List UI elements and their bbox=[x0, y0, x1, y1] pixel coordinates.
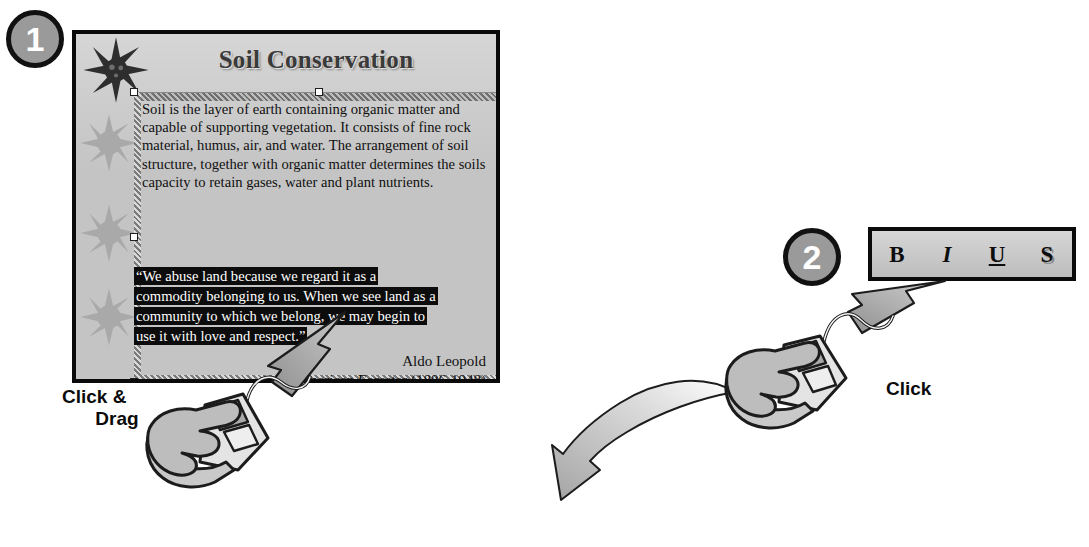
caption-drag-line1: Click & bbox=[62, 386, 126, 407]
slide-title[interactable]: Soil Conservation bbox=[136, 46, 496, 74]
bold-button[interactable]: B bbox=[872, 243, 922, 266]
quote-line: use it with love and respect.” bbox=[134, 326, 464, 346]
italic-button[interactable]: I bbox=[922, 243, 972, 266]
formatting-toolbar[interactable]: B I U S bbox=[868, 227, 1076, 281]
underline-button[interactable]: U bbox=[972, 243, 1022, 266]
step-badge-2: 2 bbox=[783, 228, 841, 286]
resize-handle-top-left[interactable] bbox=[130, 88, 138, 96]
selected-quote-text[interactable]: “We abuse land because we regard it as a… bbox=[134, 266, 464, 346]
sun-star-light-icon bbox=[78, 112, 140, 174]
sun-star-light-icon bbox=[78, 286, 140, 348]
caption-click: Click bbox=[886, 378, 931, 400]
attribution-name: Aldo Leopold bbox=[295, 352, 486, 371]
quote-line: commodity belonging to us. When we see l… bbox=[134, 286, 464, 306]
slide-canvas: Soil Conservation Soil is the layer of e… bbox=[76, 34, 496, 379]
resize-handle-top-middle[interactable] bbox=[315, 88, 323, 96]
hand-on-mouse-click-icon bbox=[726, 314, 893, 428]
resize-handle-middle-left[interactable] bbox=[130, 233, 138, 241]
step-badge-1-number: 1 bbox=[26, 22, 45, 56]
slide-body-text[interactable]: Soil is the layer of earth containing or… bbox=[142, 100, 498, 193]
step-badge-2-number: 2 bbox=[803, 240, 822, 274]
body-paragraph: Soil is the layer of earth containing or… bbox=[142, 100, 498, 191]
flow-sweep-arrow-icon bbox=[552, 381, 735, 500]
caption-drag-line2: Drag bbox=[62, 408, 172, 430]
quote-line: community to which we belong, we may beg… bbox=[134, 306, 464, 326]
caption-click-and-drag: Click & Drag bbox=[62, 386, 172, 430]
shadow-button[interactable]: S bbox=[1022, 243, 1072, 266]
resize-handle-bottom-left[interactable] bbox=[130, 378, 138, 383]
quote-line: “We abuse land because we regard it as a bbox=[134, 266, 464, 286]
step-badge-1: 1 bbox=[6, 10, 64, 68]
click-pointer-arrow-icon bbox=[848, 281, 945, 333]
attribution-role: American Forester (1886-1948) bbox=[295, 371, 486, 383]
presentation-slide[interactable]: Soil Conservation Soil is the layer of e… bbox=[72, 30, 500, 383]
quote-attribution: Aldo Leopold American Forester (1886-194… bbox=[295, 352, 486, 383]
